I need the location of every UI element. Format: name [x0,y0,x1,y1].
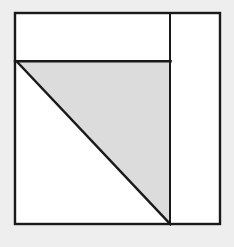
right-white-column [170,13,220,224]
top-white-band [15,13,170,61]
figure-drawing [0,0,234,247]
figure-canvas [0,0,234,247]
